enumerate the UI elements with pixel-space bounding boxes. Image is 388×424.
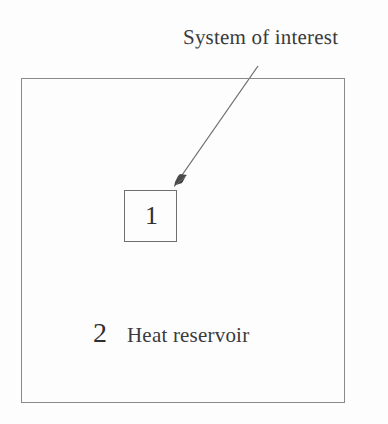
inner-box-system-1: 1 xyxy=(124,190,177,242)
caption-system-of-interest: System of interest xyxy=(183,24,383,51)
inner-box-label: 1 xyxy=(125,191,178,243)
reservoir-name: Heat reservoir xyxy=(127,321,249,349)
outer-box-heat-reservoir: 1 2 Heat reservoir xyxy=(21,78,345,403)
figure-canvas: System of interest 1 2 Heat reservoir xyxy=(0,0,388,424)
reservoir-label-group: 2 Heat reservoir xyxy=(93,319,249,349)
reservoir-index: 2 xyxy=(93,319,107,347)
